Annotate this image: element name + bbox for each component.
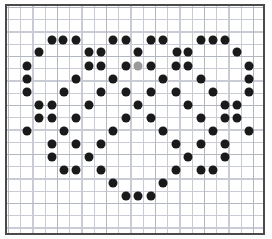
scatter-marker: [245, 88, 254, 97]
scatter-marker: [72, 166, 81, 175]
scatter-marker: [134, 48, 143, 57]
scatter-marker: [96, 62, 105, 71]
scatter-marker: [209, 88, 218, 97]
scatter-marker: [72, 36, 81, 45]
scatter-marker: [233, 101, 242, 110]
plot-frame: [5, 4, 265, 235]
scatter-marker: [96, 48, 105, 57]
scatter-marker: [85, 48, 94, 57]
scatter-marker: [85, 153, 94, 162]
scatter-marker: [159, 75, 168, 84]
scatter-marker: [197, 166, 206, 175]
scatter-marker: [245, 75, 254, 84]
scatter-marker: [72, 140, 81, 149]
scatter-marker: [134, 101, 143, 110]
scatter-marker: [96, 166, 105, 175]
scatter-marker: [109, 127, 118, 136]
scatter-marker: [23, 88, 32, 97]
scatter-marker: [245, 62, 254, 71]
scatter-marker: [22, 75, 31, 84]
scatter-marker: [122, 192, 131, 201]
scatter-marker: [122, 114, 131, 123]
scatter-marker: [209, 36, 218, 45]
scatter-marker: [146, 114, 155, 123]
scatter-marker: [233, 114, 242, 123]
scatter-marker: [172, 88, 181, 97]
scatter-marker: [184, 48, 193, 57]
scatter-marker: [146, 36, 155, 45]
scatter-marker: [233, 48, 242, 57]
scatter-marker: [221, 101, 230, 110]
scatter-marker: [197, 140, 206, 149]
scatter-marker: [35, 48, 44, 57]
scatter-marker: [122, 88, 131, 97]
scatter-marker: [60, 127, 69, 136]
scatter-marker: [172, 62, 181, 71]
scatter-marker: [158, 36, 167, 45]
scatter-marker: [184, 101, 193, 110]
scatter-marker: [23, 62, 32, 71]
scatter-marker: [122, 62, 131, 71]
scatter-marker: [85, 101, 94, 110]
scatter-marker: [35, 114, 44, 123]
scatter-marker: [184, 153, 193, 162]
scatter-plot-area: [7, 6, 263, 233]
scatter-marker: [146, 62, 155, 71]
scatter-marker: [134, 62, 143, 71]
scatter-marker: [109, 75, 118, 84]
scatter-marker: [85, 62, 94, 71]
scatter-marker: [109, 36, 118, 45]
scatter-marker: [197, 114, 206, 123]
scatter-marker: [23, 127, 32, 136]
scatter-marker: [159, 127, 168, 136]
scatter-marker: [221, 140, 230, 149]
scatter-marker: [47, 153, 56, 162]
scatter-marker: [146, 88, 155, 97]
scatter-marker: [96, 140, 105, 149]
scatter-marker: [172, 166, 181, 175]
scatter-marker: [109, 179, 118, 188]
scatter-marker: [221, 153, 230, 162]
scatter-marker: [221, 36, 230, 45]
scatter-marker: [60, 166, 69, 175]
scatter-marker: [47, 114, 56, 123]
scatter-marker: [72, 114, 81, 123]
scatter-marker: [221, 114, 230, 123]
scatter-marker: [197, 36, 206, 45]
scatter-marker: [209, 166, 218, 175]
scatter-marker: [245, 127, 254, 136]
scatter-marker: [47, 101, 56, 110]
scatter-marker: [72, 75, 81, 84]
scatter-marker: [59, 36, 68, 45]
scatter-marker: [172, 140, 181, 149]
scatter-marker: [134, 192, 143, 201]
scatter-marker: [159, 179, 168, 188]
scatter-marker: [60, 88, 69, 97]
scatter-marker: [35, 101, 44, 110]
scatter-marker: [96, 88, 105, 97]
screenshot-canvas: [0, 0, 272, 239]
scatter-marker: [122, 36, 131, 45]
scatter-marker: [47, 36, 56, 45]
scatter-marker: [197, 75, 206, 84]
scatter-marker: [184, 62, 193, 71]
scatter-marker: [209, 127, 218, 136]
scatter-marker: [146, 192, 155, 201]
scatter-marker: [47, 140, 56, 149]
scatter-marker: [172, 48, 181, 57]
